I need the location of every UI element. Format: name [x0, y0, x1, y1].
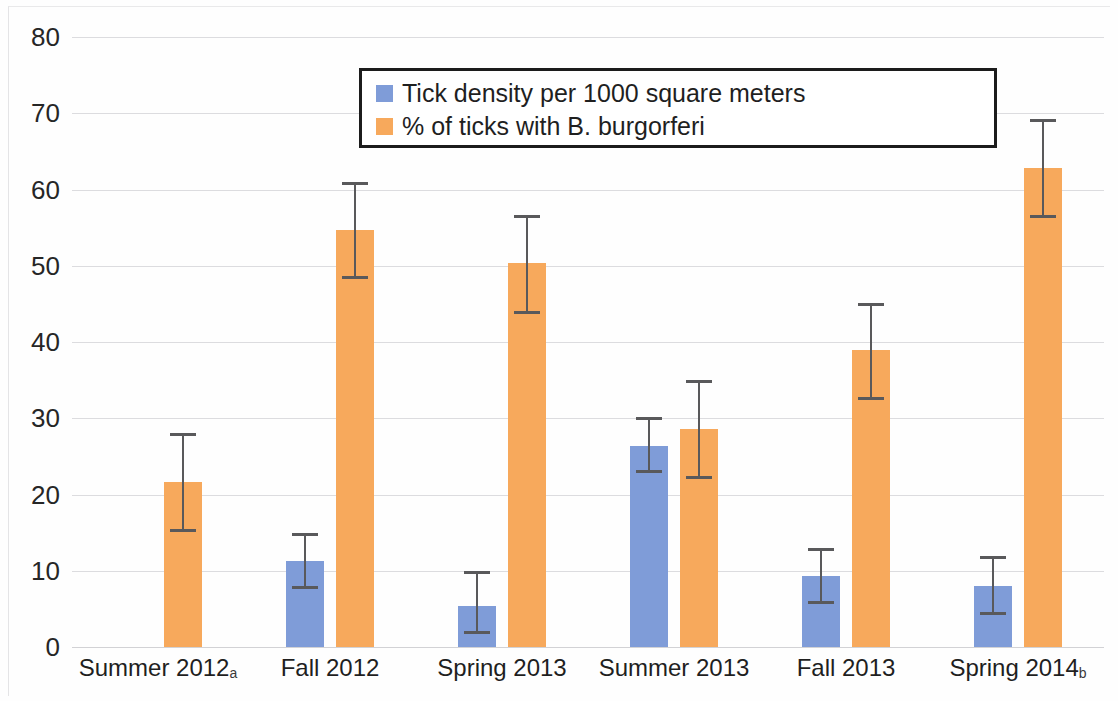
error-bar	[680, 380, 718, 479]
gridline-0	[72, 647, 1104, 648]
error-bar-cap-top	[1030, 119, 1056, 122]
chart-legend: Tick density per 1000 square meters % of…	[359, 68, 997, 148]
bar	[630, 446, 668, 647]
error-bar-line	[1042, 119, 1044, 218]
error-bar-cap-top	[464, 571, 490, 574]
error-bar-line	[648, 417, 650, 473]
x-axis-tick-label: Summer 2012a	[72, 656, 244, 680]
error-bar-cap-top	[686, 380, 712, 383]
error-bar	[630, 417, 668, 473]
error-bar-cap-bottom	[686, 476, 712, 479]
error-bar-cap-bottom	[636, 470, 662, 473]
error-bar-cap-bottom	[342, 276, 368, 279]
bar	[1024, 168, 1062, 647]
y-axis-tick-label-30: 30	[14, 405, 60, 431]
error-bar-line	[476, 571, 478, 634]
error-bar-line	[304, 533, 306, 589]
error-bar-line	[820, 548, 822, 604]
error-bar-line	[698, 380, 700, 479]
error-bar	[802, 548, 840, 604]
error-bar	[458, 571, 496, 634]
error-bar	[852, 303, 890, 400]
error-bar	[508, 215, 546, 314]
error-bar-cap-bottom	[464, 631, 490, 634]
x-axis-tick-label: Fall 2012	[244, 656, 416, 680]
bar	[508, 263, 546, 647]
error-bar-cap-bottom	[514, 311, 540, 314]
error-bar-cap-bottom	[1030, 215, 1056, 218]
error-bar	[974, 556, 1012, 615]
y-axis-tick-label-70: 70	[14, 100, 60, 126]
error-bar-cap-top	[292, 533, 318, 536]
x-axis-label-footnote: a	[229, 665, 237, 681]
error-bar-cap-bottom	[808, 601, 834, 604]
y-axis-tick-label-50: 50	[14, 253, 60, 279]
error-bar	[286, 533, 324, 589]
error-bar-line	[526, 215, 528, 314]
y-axis-tick-label-40: 40	[14, 329, 60, 355]
error-bar-cap-top	[170, 433, 196, 436]
error-bar-cap-top	[514, 215, 540, 218]
legend-label-percent-infected: % of ticks with B. burgorferi	[402, 114, 705, 139]
y-axis-tick-label-60: 60	[14, 177, 60, 203]
x-axis-label-footnote: b	[1079, 665, 1087, 681]
error-bar-cap-bottom	[858, 397, 884, 400]
error-bar-cap-top	[858, 303, 884, 306]
error-bar-cap-top	[808, 548, 834, 551]
error-bar	[336, 182, 374, 280]
legend-item-percent-infected: % of ticks with B. burgorferi	[376, 110, 982, 143]
legend-label-tick-density: Tick density per 1000 square meters	[402, 81, 805, 106]
legend-swatch-blue-icon	[376, 85, 393, 102]
error-bar-cap-bottom	[292, 586, 318, 589]
y-axis-tick-label-20: 20	[14, 482, 60, 508]
error-bar-line	[870, 303, 872, 400]
y-axis-tick-label-0: 0	[14, 634, 60, 660]
y-axis-tick-label-80: 80	[14, 24, 60, 50]
error-bar-line	[182, 433, 184, 532]
bar-group	[72, 37, 244, 647]
x-axis-tick-label: Fall 2013	[760, 656, 932, 680]
error-bar-cap-top	[980, 556, 1006, 559]
bar	[336, 230, 374, 647]
y-axis-tick-label-10: 10	[14, 558, 60, 584]
error-bar	[164, 433, 202, 532]
legend-item-tick-density: Tick density per 1000 square meters	[376, 77, 982, 110]
x-axis-tick-label: Summer 2013	[588, 656, 760, 680]
legend-swatch-orange-icon	[376, 118, 393, 135]
error-bar-cap-bottom	[170, 529, 196, 532]
error-bar-cap-top	[636, 417, 662, 420]
error-bar-line	[354, 182, 356, 280]
error-bar-cap-bottom	[980, 612, 1006, 615]
error-bar-line	[992, 556, 994, 615]
bar-chart: 01020304050607080 Summer 2012aFall 2012S…	[0, 0, 1118, 701]
x-axis-tick-label: Spring 2013	[416, 656, 588, 680]
error-bar	[1024, 119, 1062, 218]
error-bar-cap-top	[342, 182, 368, 185]
x-axis: Summer 2012aFall 2012Spring 2013Summer 2…	[72, 656, 1104, 696]
x-axis-tick-label: Spring 2014b	[932, 656, 1104, 680]
